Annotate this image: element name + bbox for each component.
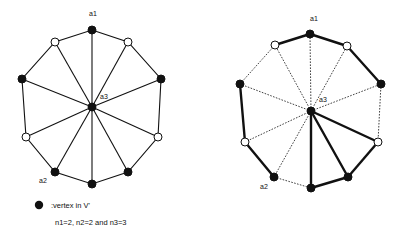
- vertex-a2: [51, 168, 59, 176]
- label-a2-right: a2: [260, 183, 268, 190]
- legend-caption: n1=2, n2=2 and n3=3: [55, 218, 127, 227]
- legend-filled-vertex-icon: [35, 201, 43, 209]
- label-a3-right: a3: [319, 96, 327, 103]
- diagram-canvas: a1 a3 a2 a1 a3: [0, 0, 402, 243]
- vertex-filled: [236, 80, 244, 88]
- vertex-filled: [307, 184, 315, 192]
- legend-vertex-text: :vertex in V': [51, 201, 91, 210]
- vertex-a1: [88, 26, 96, 34]
- vertex-filled: [88, 180, 96, 188]
- vertex-filled: [344, 173, 352, 181]
- vertex-open: [241, 138, 249, 146]
- label-a1-right: a1: [310, 15, 318, 22]
- vertex-open: [51, 38, 59, 46]
- vertex-a3: [88, 103, 96, 111]
- vertex-filled: [18, 75, 26, 83]
- label-a1-left: a1: [89, 10, 97, 17]
- vertex-open: [154, 133, 162, 141]
- label-a3-left: a3: [100, 93, 108, 100]
- label-a2-left: a2: [39, 177, 47, 184]
- vertex-filled: [157, 75, 165, 83]
- vertex-a3: [307, 107, 315, 115]
- vertex-filled: [124, 168, 132, 176]
- vertex-open: [124, 38, 132, 46]
- legend: :vertex in V' n1=2, n2=2 and n3=3: [35, 201, 127, 227]
- vertex-open: [374, 138, 382, 146]
- vertex-a1: [306, 30, 314, 38]
- vertex-open: [271, 41, 279, 49]
- vertex-a2: [270, 173, 278, 181]
- vertex-filled: [377, 80, 385, 88]
- vertex-open: [343, 42, 351, 50]
- vertex-open: [22, 133, 30, 141]
